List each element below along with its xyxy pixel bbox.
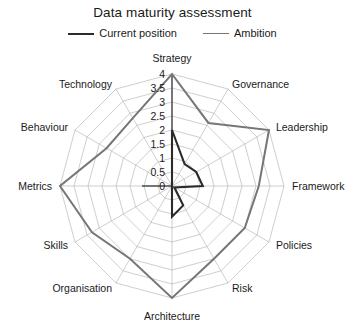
radial-tick-label: 0	[159, 180, 165, 192]
radial-tick-label: 1	[159, 152, 165, 164]
axis-label-leadership: Leadership	[276, 121, 328, 133]
radial-tick-label: 3.5	[150, 82, 165, 94]
axis-label-skills: Skills	[44, 239, 69, 251]
radial-tick-label: 0.5	[150, 166, 165, 178]
radial-tick-label: 1.5	[150, 138, 165, 150]
axis-label-risk: Risk	[232, 282, 253, 294]
radar-chart: Data maturity assessment Current positio…	[0, 0, 345, 323]
axis-label-metrics: Metrics	[18, 180, 52, 192]
axis-label-framework: Framework	[292, 180, 345, 192]
axis-label-behaviour: Behaviour	[21, 121, 69, 133]
axis-label-policies: Policies	[276, 239, 312, 251]
axis-label-organisation: Organisation	[52, 282, 112, 294]
radial-tick-label: 4	[159, 68, 165, 80]
radial-tick-label: 2	[159, 124, 165, 136]
axis-label-architecture: Architecture	[144, 310, 200, 322]
axis-label-strategy: Strategy	[152, 52, 192, 64]
radial-tick-label: 2.5	[150, 110, 165, 122]
axis-label-governance: Governance	[232, 78, 289, 90]
axis-label-technology: Technology	[59, 78, 113, 90]
radar-tick-labels: 00.511.522.533.54	[150, 68, 165, 192]
radar-plot-area: 00.511.522.533.54 StrategyGovernanceLead…	[0, 0, 345, 323]
radial-tick-label: 3	[159, 96, 165, 108]
